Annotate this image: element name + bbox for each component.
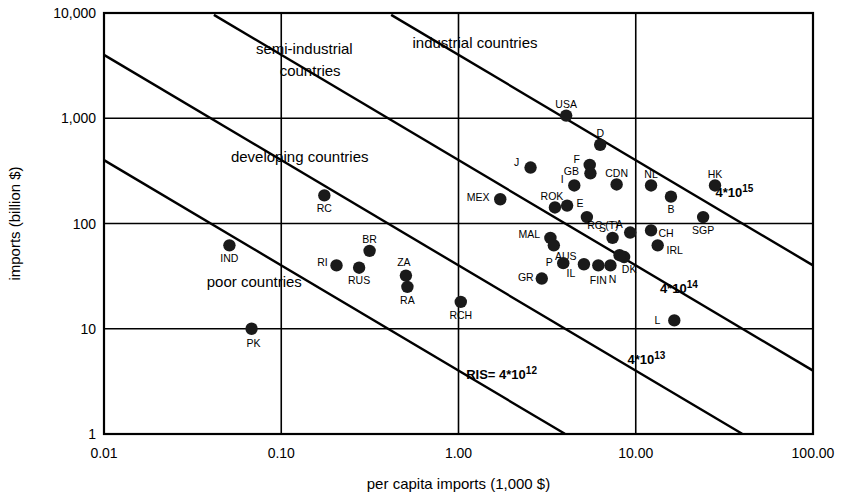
point-label-MAL: MAL: [519, 228, 541, 240]
point-label-CH: CH: [658, 227, 673, 239]
data-point-SGP[interactable]: [697, 211, 709, 223]
data-point-RI[interactable]: [330, 259, 342, 271]
y-tick-labels: 10,0001,000100101: [53, 5, 96, 442]
data-point-GB[interactable]: [584, 167, 596, 179]
point-label-MEX: MEX: [467, 191, 490, 203]
data-point-BR[interactable]: [363, 245, 375, 257]
data-point-CDN[interactable]: [610, 178, 622, 190]
point-label-GB: GB: [564, 165, 579, 177]
data-point-ROK[interactable]: [549, 201, 561, 213]
data-point-E[interactable]: [561, 199, 573, 211]
point-label-J: J: [514, 156, 519, 168]
point-label-DK: DK: [622, 263, 637, 275]
point-label-RUS: RUS: [348, 274, 370, 286]
point-label-RC: RC: [317, 202, 333, 214]
chart-canvas: RIS= 4*10124*10134*10144*1015semi-indust…: [0, 0, 853, 494]
x-tick-1.00: 1.00: [445, 445, 472, 461]
data-point-N[interactable]: [604, 259, 616, 271]
data-point-RCH[interactable]: [455, 296, 467, 308]
point-label-USA: USA: [555, 98, 577, 110]
point-label-FIN: FIN: [590, 274, 607, 286]
y-tick-10000: 10,000: [53, 5, 96, 21]
point-label-ZA: ZA: [397, 256, 410, 268]
x-tick-0.10: 0.10: [268, 445, 295, 461]
x-tick-0.01: 0.01: [90, 445, 117, 461]
data-point-J[interactable]: [524, 161, 536, 173]
point-label-ROK: ROK: [541, 190, 564, 202]
point-label-RI: RI: [317, 256, 328, 268]
region-label-4: developing countries: [231, 148, 369, 165]
data-point-D[interactable]: [594, 139, 606, 151]
data-point-MEX[interactable]: [494, 193, 506, 205]
scatter-chart: RIS= 4*10124*10134*10144*1015semi-indust…: [0, 0, 853, 494]
point-label-PK: PK: [247, 337, 261, 349]
x-tick-10.00: 10.00: [618, 445, 653, 461]
data-point-USA[interactable]: [560, 109, 572, 121]
point-label-NL: NL: [644, 168, 658, 180]
point-label-S: S: [599, 222, 606, 234]
point-label-L: L: [654, 314, 660, 326]
point-label-CDN: CDN: [605, 167, 628, 179]
iso-label-3: 4*1014: [660, 279, 698, 296]
data-point-GR[interactable]: [536, 272, 548, 284]
data-point-I[interactable]: [568, 179, 580, 191]
data-point-IND[interactable]: [223, 239, 235, 251]
data-point-RA[interactable]: [401, 281, 413, 293]
y-tick-10: 10: [80, 321, 96, 337]
y-axis-title: imports (billion $): [6, 166, 23, 280]
point-label-GR: GR: [518, 271, 534, 283]
point-label-I: I: [561, 173, 564, 185]
data-point-CH[interactable]: [645, 224, 657, 236]
data-point-L[interactable]: [668, 314, 680, 326]
point-label-B: B: [667, 203, 674, 215]
point-label-N: N: [609, 273, 617, 285]
x-tick-labels: 0.010.101.0010.00100.00: [90, 445, 834, 461]
data-point-HK[interactable]: [709, 179, 721, 191]
y-tick-1000: 1,000: [61, 110, 96, 126]
point-label-E: E: [577, 197, 584, 209]
data-point-RC[interactable]: [318, 189, 330, 201]
x-axis-title: per capita imports (1,000 $): [367, 475, 550, 492]
point-label-F: F: [574, 153, 580, 165]
point-label-IL: IL: [567, 267, 576, 279]
data-point-NL[interactable]: [645, 179, 657, 191]
data-point-PK[interactable]: [245, 323, 257, 335]
data-point-S[interactable]: [606, 232, 618, 244]
y-tick-100: 100: [73, 216, 97, 232]
region-label-3: industrial countries: [412, 34, 537, 51]
point-label-IRL: IRL: [667, 244, 684, 256]
point-label-HK: HK: [708, 168, 723, 180]
point-label-A: A: [616, 218, 623, 230]
iso-line-2: [104, 55, 742, 434]
iso-label-2: 4*1013: [628, 350, 666, 367]
iso-label-1: RIS= 4*1012: [466, 365, 537, 382]
data-point-IL[interactable]: [578, 258, 590, 270]
data-point-B[interactable]: [665, 190, 677, 202]
region-label-5: poor countries: [207, 273, 302, 290]
data-point-A[interactable]: [624, 226, 636, 238]
point-label-D: D: [596, 127, 604, 139]
y-tick-1: 1: [88, 426, 96, 442]
data-point-ZA[interactable]: [400, 269, 412, 281]
point-label-RCH: RCH: [449, 309, 472, 321]
point-label-P: P: [546, 256, 553, 268]
point-label-RA: RA: [400, 294, 415, 306]
x-tick-100.00: 100.00: [792, 445, 835, 461]
data-point-P[interactable]: [557, 257, 569, 269]
data-point-FIN[interactable]: [592, 259, 604, 271]
point-label-IND: IND: [220, 252, 239, 264]
data-point-A2[interactable]: [613, 249, 625, 261]
data-point-IRL[interactable]: [652, 239, 664, 251]
data-point-RUS[interactable]: [353, 262, 365, 274]
region-label-1: semi-industrial: [256, 40, 353, 57]
point-label-SGP: SGP: [692, 224, 714, 236]
region-label-2: countries: [280, 62, 341, 79]
point-label-BR: BR: [362, 233, 377, 245]
